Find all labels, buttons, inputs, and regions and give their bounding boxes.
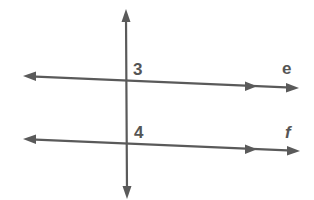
line-f [23,135,300,156]
parallel-marker-icon [245,145,257,155]
arrow-right-icon [287,146,300,156]
arrow-right-icon [286,83,299,93]
parallel-lines-diagram: 3 4 e f [0,0,314,200]
angle-label-3: 3 [133,60,142,79]
arrow-up-icon [122,9,131,22]
transversal-line [122,9,132,199]
parallel-marker-icon [245,82,257,92]
line-label-f: f [285,123,293,142]
arrow-left-icon [23,135,36,145]
arrow-down-icon [123,186,132,199]
line-label-e: e [282,59,291,78]
arrow-left-icon [23,72,36,82]
angle-label-4: 4 [134,123,144,142]
line-e [23,72,299,93]
